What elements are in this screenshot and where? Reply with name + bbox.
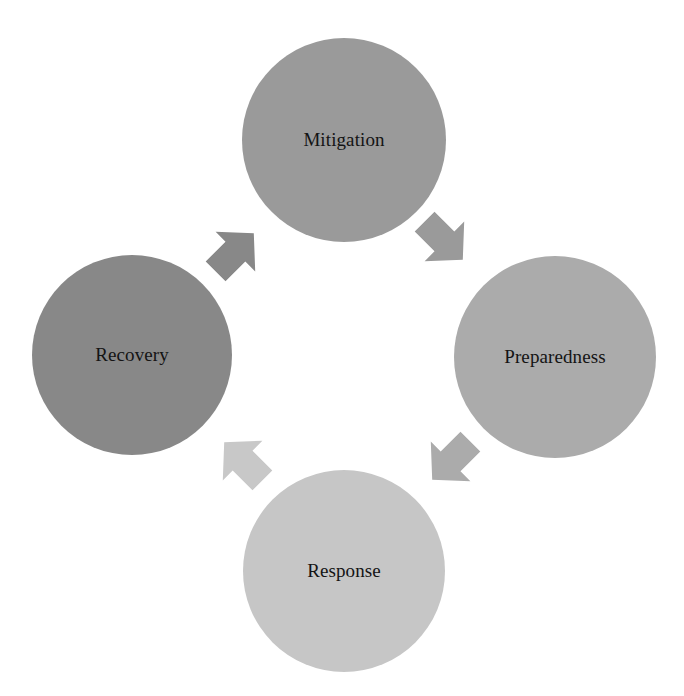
- disaster-management-cycle-diagram: Mitigation Preparedness Response Recover…: [0, 0, 684, 696]
- node-label-mitigation: Mitigation: [303, 129, 384, 151]
- node-recovery: Recovery: [32, 255, 232, 455]
- node-mitigation: Mitigation: [242, 38, 446, 242]
- node-label-preparedness: Preparedness: [504, 346, 605, 368]
- arrow-response-to-recovery-icon: [202, 420, 287, 505]
- arrow-preparedness-to-response-icon: [410, 418, 495, 503]
- node-label-response: Response: [307, 560, 381, 582]
- node-response: Response: [243, 470, 445, 672]
- node-label-recovery: Recovery: [95, 344, 169, 366]
- node-preparedness: Preparedness: [454, 256, 656, 458]
- arrow-recovery-to-mitigation-icon: [192, 211, 277, 296]
